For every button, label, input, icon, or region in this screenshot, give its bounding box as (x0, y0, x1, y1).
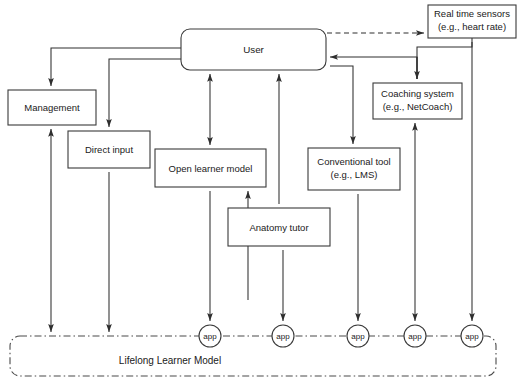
app-node-1[interactable]: app (199, 325, 221, 347)
node-management-label: Management (24, 102, 80, 113)
node-management[interactable]: Management (8, 90, 96, 125)
node-real-time-sensors-label: Real time sensors (434, 8, 510, 19)
app-node-1-label: app (203, 332, 217, 341)
edge-user-to-management (51, 48, 181, 86)
node-real-time-sensors-sublabel: (e.g., heart rate) (438, 21, 506, 32)
node-direct-input[interactable]: Direct input (68, 131, 150, 168)
node-anatomy-tutor[interactable]: Anatomy tutor (228, 208, 330, 246)
node-user-label: User (243, 44, 264, 55)
edge-coaching-to-user (330, 57, 417, 79)
app-node-4-label: app (408, 332, 422, 341)
edge-user-to-direct-input (109, 59, 181, 127)
node-coaching-system-label: Coaching system (381, 88, 454, 99)
node-conventional-tool[interactable]: Conventional tool (e.g., LMS) (308, 148, 400, 190)
app-node-2-label: app (276, 332, 290, 341)
node-open-learner-model[interactable]: Open learner model (155, 149, 266, 187)
edge-user-to-conventional-tool (330, 66, 353, 144)
app-node-2[interactable]: app (272, 325, 294, 347)
architecture-diagram: Lifelong Learner Model User Real time se… (0, 0, 521, 389)
app-node-3[interactable]: app (347, 325, 369, 347)
node-conventional-tool-sublabel: (e.g., LMS) (331, 169, 378, 180)
node-user[interactable]: User (181, 29, 326, 70)
diagram-canvas: Lifelong Learner Model User Real time se… (0, 0, 521, 389)
container-label: Lifelong Learner Model (119, 355, 221, 366)
app-node-3-label: app (351, 332, 365, 341)
node-direct-input-label: Direct input (85, 144, 133, 155)
edge-sensors-down-to-coaching (417, 38, 472, 79)
node-coaching-system[interactable]: Coaching system (e.g., NetCoach) (373, 83, 462, 119)
node-open-learner-model-label: Open learner model (169, 163, 253, 174)
node-real-time-sensors[interactable]: Real time sensors (e.g., heart rate) (428, 5, 516, 38)
app-node-5-label: app (465, 332, 479, 341)
node-coaching-system-sublabel: (e.g., NetCoach) (383, 101, 453, 112)
node-anatomy-tutor-label: Anatomy tutor (249, 222, 308, 233)
app-node-5[interactable]: app (461, 325, 483, 347)
node-conventional-tool-label: Conventional tool (317, 156, 390, 167)
app-node-4[interactable]: app (404, 325, 426, 347)
